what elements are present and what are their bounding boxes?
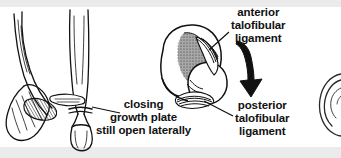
- leader-posterior-talofibular-line: [204, 101, 233, 116]
- label-anterior-line-1: anterior: [231, 6, 286, 19]
- panel-right-cropped-figure: [319, 74, 341, 136]
- label-anterior-line-3: ligament: [231, 32, 286, 45]
- label-posterior-line-3: ligament: [235, 125, 290, 138]
- anatomical-figure: anterior talofibular ligament posterior …: [0, 0, 341, 158]
- label-anterior-line-2: talofibular: [231, 19, 286, 32]
- panel-center-ankle-cross-section: [161, 25, 227, 108]
- label-growth-line-1: closing: [96, 98, 191, 111]
- label-growth-line-2: growth plate: [96, 111, 191, 124]
- label-anterior-talofibular-ligament: anterior talofibular ligament: [231, 6, 286, 45]
- label-posterior-talofibular-ligament: posterior talofibular ligament: [235, 99, 290, 138]
- label-growth-line-3: still open laterally: [96, 124, 191, 137]
- panel-left-tibia-fibula: [6, 10, 92, 151]
- label-closing-growth-plate: closing growth plate still open laterall…: [96, 98, 191, 137]
- label-posterior-line-2: talofibular: [235, 112, 290, 125]
- force-direction-arrow: [236, 41, 262, 97]
- label-posterior-line-1: posterior: [235, 99, 290, 112]
